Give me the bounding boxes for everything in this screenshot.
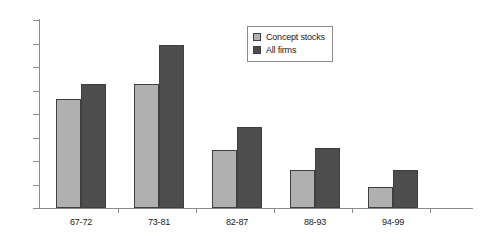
x-tick-mark [196, 208, 197, 213]
bar [290, 170, 315, 208]
x-tick-mark [352, 208, 353, 213]
legend-label: Concept stocks [266, 32, 325, 42]
y-tick-mark [33, 67, 39, 68]
legend-label: All firms [266, 45, 296, 55]
bar [368, 187, 393, 208]
y-tick-mark [33, 20, 39, 21]
bar [315, 148, 340, 208]
y-tick-mark [33, 44, 39, 45]
x-tick-mark [118, 208, 119, 213]
x-axis-label: 94-99 [363, 217, 423, 227]
legend-swatch-icon [253, 46, 261, 54]
bar-chart: 0510152025303540 67-7273-8182-8788-9394-… [0, 0, 485, 245]
bar [56, 99, 81, 209]
bar [81, 84, 106, 208]
y-tick-mark [33, 208, 39, 209]
y-tick-mark [33, 185, 39, 186]
legend-item: Concept stocks [253, 31, 325, 43]
y-tick-mark [33, 138, 39, 139]
y-tick-mark [33, 114, 39, 115]
x-axis-label: 82-87 [207, 217, 267, 227]
x-axis-label: 67-72 [51, 217, 111, 227]
legend-item: All firms [253, 44, 325, 56]
bar [159, 45, 184, 208]
x-tick-mark [430, 208, 431, 213]
bar [134, 84, 159, 208]
x-axis-label: 73-81 [129, 217, 189, 227]
chart-legend: Concept stocksAll firms [247, 26, 333, 62]
bar [212, 150, 237, 208]
bar [237, 127, 262, 208]
bar [393, 170, 418, 208]
y-tick-mark [33, 161, 39, 162]
y-tick-mark [33, 91, 39, 92]
x-axis-line [39, 208, 473, 209]
x-tick-mark [274, 208, 275, 213]
legend-swatch-icon [253, 33, 261, 41]
x-axis-label: 88-93 [285, 217, 345, 227]
